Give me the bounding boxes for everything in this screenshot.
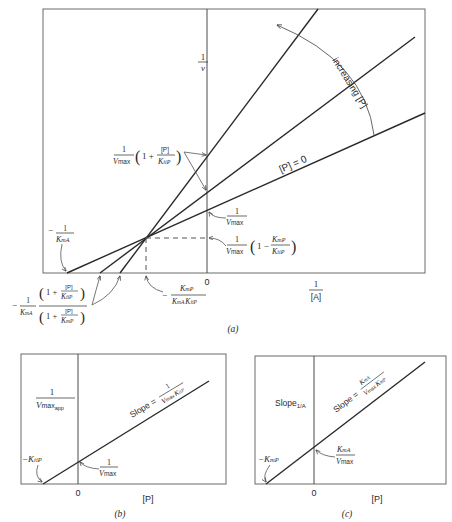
panel-c-y-intercept-label: KmA Vmax <box>336 445 355 466</box>
svg-text:KmA: KmA <box>55 235 70 244</box>
svg-text:1 +: 1 + <box>142 151 154 161</box>
figure-canvas: increasing [P] [P] = 0 1 v 1 Vmax ( 1 + … <box>0 0 452 522</box>
panel-b-line <box>43 381 209 484</box>
y-axis-label-num: 1 <box>201 52 206 62</box>
line-p-zero <box>67 113 425 273</box>
svg-text:KmP: KmP <box>271 235 286 244</box>
panel-c-caption: (c) <box>342 509 353 520</box>
arrow-to-middle-x-intercept <box>92 276 100 305</box>
panel-a-frame <box>43 9 425 273</box>
svg-text:1: 1 <box>107 458 111 467</box>
svg-text:Slope =: Slope = <box>331 389 360 414</box>
label-x-intercepts: − 1 KmA ( 1 + [P] KiiP ) ( 1 + [P] KmP ) <box>12 284 87 326</box>
panel-c-slope-label: Slope = KmA VmaxKmP <box>328 365 390 418</box>
panel-c-arrow-y-intercept <box>316 450 335 457</box>
panel-c: Slope1/A Slope = KmA VmaxKmP −KmP KmA Vm… <box>255 356 446 520</box>
svg-text:): ) <box>176 148 181 166</box>
svg-text:−: − <box>48 225 53 235</box>
arrow-to-steep-intercept <box>184 152 206 155</box>
svg-text:Vmax: Vmax <box>113 157 131 166</box>
panel-a: increasing [P] [P] = 0 1 v 1 Vmax ( 1 + … <box>12 9 425 335</box>
panel-c-line <box>266 362 425 484</box>
label-intersection-y: 1 Vmax ( 1 − KmP KiiP ) <box>226 235 296 256</box>
svg-text:Vmax: Vmax <box>99 469 117 478</box>
label-intersection-x: − KmP KmAKiiP <box>162 284 206 306</box>
arrow-to-kma-intercept <box>61 244 66 271</box>
svg-text:[P]: [P] <box>161 146 169 154</box>
arrow-to-intersection-y <box>209 238 226 246</box>
svg-text:KmA: KmA <box>336 445 351 454</box>
panel-a-origin-label: 0 <box>204 277 209 287</box>
svg-text:(: ( <box>135 148 140 166</box>
increasing-p-label: increasing [P] <box>330 55 370 110</box>
panel-b-y-label: 1 Vmaxapp <box>36 387 75 411</box>
label-inhibited-intercept: 1 Vmax ( 1 + [P] KiiP ) <box>113 145 181 166</box>
increasing-p-arc-arrow <box>277 25 374 135</box>
svg-text:): ) <box>291 238 296 256</box>
x-axis-label-den: [A] <box>311 292 321 302</box>
panel-a-caption: (a) <box>227 324 238 335</box>
svg-text:Vmax: Vmax <box>336 457 354 466</box>
svg-text:1 +: 1 + <box>46 311 57 321</box>
line-steep <box>120 9 318 273</box>
panel-c-x-intercept-label: −KmP <box>258 454 279 464</box>
svg-text:KiiP: KiiP <box>157 157 171 166</box>
svg-text:−: − <box>12 300 17 310</box>
panel-b-x-axis-label: [P] <box>142 494 153 504</box>
svg-text:KmP: KmP <box>179 284 194 293</box>
x-axis-label-num: 1 <box>314 279 319 289</box>
svg-text:KmP: KmP <box>60 316 74 325</box>
svg-text:1: 1 <box>26 296 30 305</box>
panel-c-arrow-x-intercept <box>265 465 270 482</box>
label-neg-one-over-kma: − 1 KmA <box>48 224 74 244</box>
svg-text:1: 1 <box>63 224 67 233</box>
panel-b-arrow-y-intercept <box>80 462 99 469</box>
svg-text:): ) <box>80 285 85 302</box>
svg-text:): ) <box>80 309 85 326</box>
panel-b-caption: (b) <box>114 509 125 520</box>
svg-text:KmA: KmA <box>19 308 33 317</box>
svg-text:KiiP: KiiP <box>271 247 285 256</box>
panel-c-y-label: Slope1/A <box>275 398 306 409</box>
panel-c-x-axis-label: [P] <box>371 494 382 504</box>
svg-text:1: 1 <box>122 145 126 154</box>
svg-text:1: 1 <box>235 235 239 244</box>
svg-text:Vmaxapp: Vmaxapp <box>36 400 64 411</box>
svg-text:[P]: [P] <box>65 284 73 290</box>
y-axis-label-den: v <box>201 63 205 73</box>
svg-text:Vmax: Vmax <box>226 218 244 227</box>
svg-text:1 +: 1 + <box>46 287 57 297</box>
svg-text:−: − <box>162 290 167 300</box>
panel-b-x-intercept-label: −KiiP <box>22 454 42 464</box>
svg-text:1: 1 <box>50 387 55 397</box>
arrow-to-vmax-intercept <box>209 212 226 218</box>
label-one-over-vmax: 1 Vmax <box>226 207 247 227</box>
svg-text:1 −: 1 − <box>257 241 269 251</box>
panel-b-y-intercept-label: 1 Vmax <box>99 458 118 478</box>
svg-text:(: ( <box>39 309 44 326</box>
panel-b: 1 Vmaxapp Slope = 1 VmaxKiiP −KiiP 1 Vma… <box>21 354 226 520</box>
panel-b-arrow-x-intercept <box>37 465 42 482</box>
svg-text:[P]: [P] <box>65 308 73 314</box>
svg-text:(: ( <box>250 238 255 256</box>
panel-c-origin-label: 0 <box>311 488 316 498</box>
svg-text:KiiP: KiiP <box>60 292 73 301</box>
svg-text:1: 1 <box>164 381 172 390</box>
panel-b-origin-label: 0 <box>75 488 80 498</box>
svg-text:Vmax: Vmax <box>226 247 244 256</box>
svg-text:(: ( <box>39 285 44 302</box>
svg-text:KmAKiiP: KmAKiiP <box>171 297 197 306</box>
arrow-to-intersection-x <box>146 276 163 292</box>
svg-text:1: 1 <box>235 207 239 216</box>
panel-b-frame <box>21 354 226 484</box>
